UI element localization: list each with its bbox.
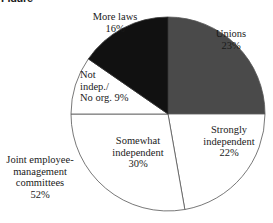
pie-label-joint-committees-line1: Joint employee- bbox=[1, 154, 79, 166]
pie-label-not-independent-line2: indep./ bbox=[80, 81, 142, 93]
pie-label-more-laws-text: More laws bbox=[76, 11, 154, 23]
pie-label-somewhat-independent: Somewhat independent 30% bbox=[98, 135, 178, 170]
pie-label-unions-percent: 23% bbox=[199, 40, 263, 52]
pie-label-unions: Unions 23% bbox=[199, 28, 263, 51]
pie-label-more-laws: More laws 16% bbox=[76, 11, 154, 34]
pie-label-strongly-independent-line2: independent bbox=[190, 136, 268, 148]
pie-label-not-independent-line3: No org. 9% bbox=[80, 92, 142, 104]
pie-label-more-laws-percent: 16% bbox=[76, 23, 154, 35]
pie-label-somewhat-independent-line2: independent bbox=[98, 147, 178, 159]
pie-label-joint-committees-line2: management bbox=[1, 166, 79, 178]
pie-label-strongly-independent-line1: Strongly bbox=[190, 124, 268, 136]
pie-label-joint-committees-line3: committees bbox=[1, 177, 79, 189]
pie-label-not-independent-line1: Not bbox=[80, 69, 142, 81]
pie-label-strongly-independent-percent: 22% bbox=[190, 147, 268, 159]
pie-label-somewhat-independent-percent: 30% bbox=[98, 158, 178, 170]
pie-label-unions-text: Unions bbox=[199, 28, 263, 40]
figure-container: Figure More laws 16% Unions 23% Strongly… bbox=[0, 0, 273, 223]
pie-label-strongly-independent: Strongly independent 22% bbox=[190, 124, 268, 159]
pie-label-joint-committees: Joint employee- management committees 52… bbox=[1, 154, 79, 200]
pie-label-joint-committees-percent: 52% bbox=[1, 189, 79, 201]
pie-label-not-independent-no-org: Not indep./ No org. 9% bbox=[80, 69, 142, 104]
pie-label-somewhat-independent-line1: Somewhat bbox=[98, 135, 178, 147]
